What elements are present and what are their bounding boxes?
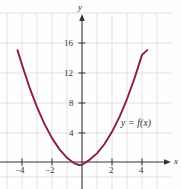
y-axis-name: y	[78, 3, 82, 12]
x-tick-label-neg4: −4	[15, 166, 25, 175]
y-tick-label-16: 16	[64, 39, 73, 48]
graph-figure: −4 −2 2 4 4 8 12 16 x y y = f(x)	[0, 0, 181, 189]
x-tick-label-neg2: −2	[45, 166, 55, 175]
curve-label: y = f(x)	[121, 119, 151, 129]
horizontal-gridlines	[0, 13, 172, 177]
x-tick-label-4: 4	[139, 166, 144, 175]
y-tick-label-12: 12	[64, 69, 73, 78]
y-tick-label-4: 4	[69, 129, 74, 138]
y-tick-label-8: 8	[69, 99, 74, 108]
coordinate-plane	[0, 0, 181, 189]
x-tick-label-2: 2	[109, 166, 114, 175]
x-axis-name: x	[174, 157, 178, 166]
